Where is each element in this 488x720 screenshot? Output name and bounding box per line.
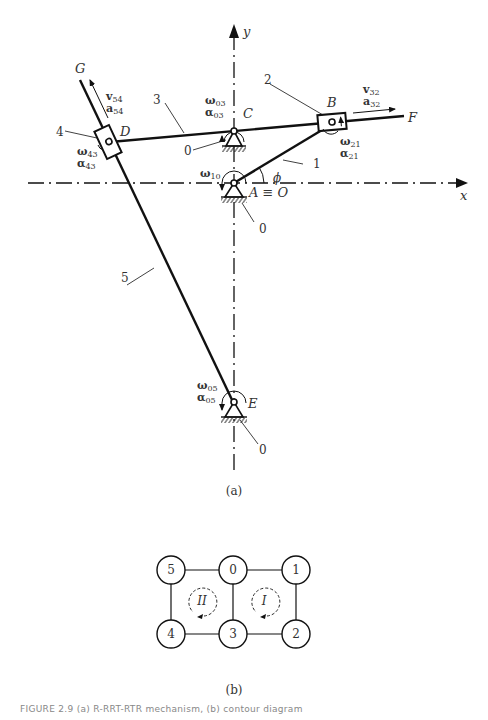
mechanism-figure: x y <box>0 0 488 720</box>
ground-e-label: 0 <box>259 443 267 457</box>
figure-caption: FIGURE 2.9 (a) R-RRT-RTR mechanism, (b) … <box>20 704 303 714</box>
point-g-label: G <box>75 61 85 76</box>
point-d-label: D <box>119 124 131 139</box>
panel-a-label: (a) <box>226 484 243 498</box>
panel-b-label: (b) <box>225 683 242 697</box>
link-3-bar <box>110 116 404 142</box>
slider-2 <box>317 113 346 131</box>
graph-node-0-label: 0 <box>229 563 237 577</box>
a32-label: a32 <box>363 95 380 109</box>
ground-c-label: 0 <box>184 144 192 158</box>
slider-4 <box>94 125 121 159</box>
link-2-label: 2 <box>264 73 272 87</box>
x-axis <box>28 178 468 188</box>
link-3-label: 3 <box>153 93 161 107</box>
v32-arrow <box>353 109 395 113</box>
point-b-label: B <box>326 95 337 110</box>
ground-a-label: 0 <box>259 222 267 236</box>
point-a-label: A ≡ O <box>248 185 289 200</box>
graph-node-1-label: 1 <box>292 563 300 577</box>
angle-phi-label: ϕ <box>273 171 281 185</box>
loop-i-label: I <box>261 594 267 608</box>
loop-ii-label: II <box>196 594 207 608</box>
phi-arc <box>259 167 264 183</box>
graph-node-4-label: 4 <box>167 627 175 641</box>
contour-graph: 5 0 1 4 3 2 II I <box>157 556 310 648</box>
link-1-crank <box>234 124 332 183</box>
a54-label: a54 <box>106 102 123 116</box>
alpha43-label: α43 <box>77 157 96 171</box>
graph-node-2-label: 2 <box>292 627 300 641</box>
link-1-label: 1 <box>313 157 321 171</box>
ground-support-e <box>221 391 247 423</box>
alpha05-label: α05 <box>197 391 216 405</box>
y-axis-label: y <box>242 24 251 39</box>
x-axis-label: x <box>460 188 468 203</box>
graph-node-5-label: 5 <box>167 563 175 577</box>
omega10-label: ω10 <box>200 167 221 181</box>
graph-node-3-label: 3 <box>229 627 237 641</box>
alpha21-label: α21 <box>340 147 359 161</box>
link-5-label: 5 <box>121 271 129 285</box>
link-4-label: 4 <box>56 125 64 139</box>
point-e-label: E <box>247 396 258 411</box>
point-f-label: F <box>407 110 418 125</box>
alpha03-label: α03 <box>205 106 224 120</box>
point-c-label: C <box>243 106 253 121</box>
